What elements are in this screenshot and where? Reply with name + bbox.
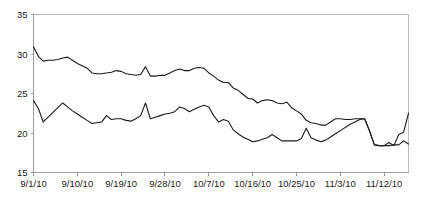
series-line-lower xyxy=(34,101,409,146)
x-axis-labels: 9/1/109/10/109/19/109/28/1010/7/1010/16/… xyxy=(20,178,402,189)
x-tick-label: 11/3/10 xyxy=(325,178,356,189)
y-tick-label: 30 xyxy=(17,49,28,60)
y-tick-label: 15 xyxy=(17,167,28,178)
y-tick-label: 20 xyxy=(17,128,28,139)
x-tick-label: 9/1/10 xyxy=(20,178,46,189)
series-lines xyxy=(34,47,409,146)
x-tick-label: 10/25/10 xyxy=(278,178,315,189)
x-tick-label: 10/16/10 xyxy=(234,178,271,189)
x-tick-label: 9/28/10 xyxy=(149,178,181,189)
y-tick-label: 25 xyxy=(17,88,28,99)
y-tick-label: 35 xyxy=(17,9,28,20)
series-line-upper xyxy=(34,47,409,146)
x-tick-label: 11/12/10 xyxy=(366,178,402,189)
plot-frame xyxy=(34,15,409,173)
x-tick-label: 9/10/10 xyxy=(61,178,93,189)
chart-canvas: 1520253035 9/1/109/10/109/19/109/28/1010… xyxy=(0,0,423,199)
line-chart: 1520253035 9/1/109/10/109/19/109/28/1010… xyxy=(0,0,423,199)
x-tick-label: 9/19/10 xyxy=(105,178,137,189)
x-tick-label: 10/7/10 xyxy=(193,178,225,189)
y-axis-labels: 1520253035 xyxy=(17,9,28,178)
